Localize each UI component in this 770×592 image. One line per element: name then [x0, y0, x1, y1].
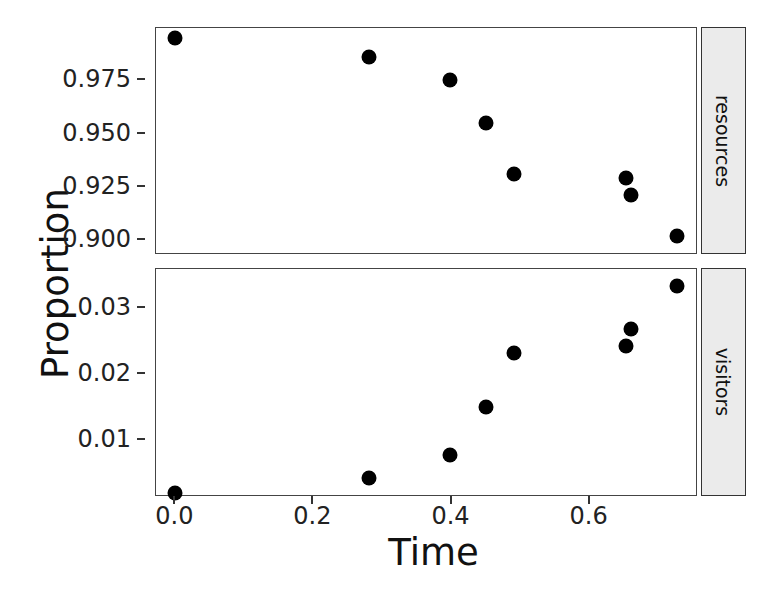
scatter-plot-figure: Proportion 0.9750.9500.9250.900 0.030.02…: [0, 0, 770, 592]
y-tick-label: 0.03: [78, 293, 131, 321]
x-tick-label: 0.6: [570, 502, 608, 530]
y-tick-label: 0.02: [78, 359, 131, 387]
data-point: [362, 49, 377, 64]
strip-label-visitors: visitors: [701, 268, 746, 496]
strip-text-visitors: visitors: [713, 348, 735, 417]
data-point: [479, 400, 494, 415]
data-point: [624, 188, 639, 203]
data-point: [624, 321, 639, 336]
data-point: [168, 30, 183, 45]
y-axis-ticks-visitors: 0.030.020.01: [60, 0, 145, 592]
x-tick-label: 0.0: [155, 502, 193, 530]
y-tick-mark: [137, 438, 145, 440]
y-tick-mark: [137, 306, 145, 308]
data-point: [443, 73, 458, 88]
data-point: [507, 167, 522, 182]
y-tick-label: 0.01: [78, 425, 131, 453]
strip-text-resources: resources: [713, 94, 735, 186]
data-point: [670, 279, 685, 294]
data-points-visitors: [156, 269, 696, 495]
x-axis-title: Time: [170, 531, 697, 574]
data-point: [670, 228, 685, 243]
panel-resources: [155, 27, 697, 254]
y-tick-mark: [137, 372, 145, 374]
data-point: [362, 470, 377, 485]
strip-label-resources: resources: [701, 27, 746, 254]
panel-visitors: [155, 268, 697, 496]
data-point: [507, 345, 522, 360]
x-tick-label: 0.2: [293, 502, 331, 530]
data-point: [479, 115, 494, 130]
x-tick-label: 0.4: [431, 502, 469, 530]
data-point: [619, 171, 634, 186]
data-point: [619, 339, 634, 354]
data-point: [168, 486, 183, 501]
data-points-resources: [156, 28, 696, 253]
data-point: [443, 448, 458, 463]
